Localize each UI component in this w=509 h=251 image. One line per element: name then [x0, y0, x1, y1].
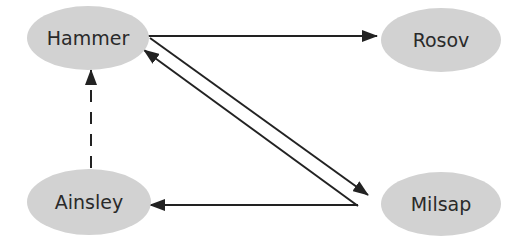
edge-milsap-to-hammer — [144, 50, 358, 206]
node-milsap: Milsap — [381, 172, 501, 236]
node-rosov: Rosov — [381, 8, 501, 72]
node-ainsley: Ainsley — [27, 169, 151, 235]
relationship-diagram: Hammer Rosov Ainsley Milsap — [0, 0, 509, 251]
edge-hammer-to-milsap — [150, 38, 368, 195]
node-hammer-label: Hammer — [47, 27, 130, 49]
node-ainsley-label: Ainsley — [55, 191, 123, 213]
node-hammer: Hammer — [27, 6, 149, 70]
node-rosov-label: Rosov — [413, 29, 470, 51]
node-milsap-label: Milsap — [411, 193, 472, 215]
